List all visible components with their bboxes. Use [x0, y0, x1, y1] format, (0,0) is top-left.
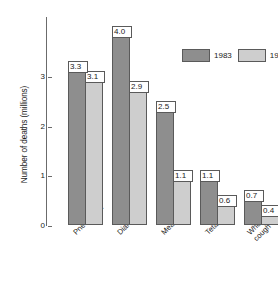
bar-value-label: 0.6 — [217, 195, 237, 207]
y-tick-label-1: 1 — [25, 170, 45, 181]
bar-1983-tetanus[interactable]: 1.1 — [200, 170, 218, 225]
bar-1983-whooping-cough[interactable]: 0.7 — [244, 190, 262, 225]
legend-label-1983: 1983 — [214, 51, 232, 60]
bar-value-label: 4.0 — [112, 26, 132, 38]
bar-1983-diarrhea[interactable]: 4.0 — [112, 26, 130, 225]
y-tick-2: 2 — [24, 127, 52, 128]
legend-swatch-icon-1992 — [238, 49, 266, 62]
bar-value-label: 0.7 — [244, 190, 264, 202]
y-tick-mark — [48, 176, 52, 177]
y-tick-mark — [48, 226, 52, 227]
bar-group-tetanus: 1.1 0.6 — [200, 16, 235, 225]
y-tick-label-3: 3 — [25, 71, 45, 82]
y-tick-label-2: 2 — [25, 121, 45, 132]
legend-swatch-icon-1983 — [182, 49, 210, 62]
bar-value-label: 0.4 — [261, 205, 278, 217]
bar-value-label: 1.1 — [200, 170, 220, 182]
bar-1992-pneumonia[interactable]: 3.1 — [85, 71, 103, 225]
legend-entry-1992: 1992 — [238, 49, 278, 62]
bar-1992-tetanus[interactable]: 0.6 — [217, 195, 235, 225]
y-axis-line — [46, 17, 47, 226]
bar-chart: Number of deaths (millions) 0 1 2 3 3.3 … — [0, 0, 278, 283]
chart-legend: 1983 1992 — [182, 49, 278, 62]
y-tick-1: 1 — [24, 176, 52, 177]
bar-1983-pneumonia[interactable]: 3.3 — [68, 61, 86, 225]
y-tick-0: 0 — [24, 226, 52, 227]
legend-entry-1983: 1983 — [182, 49, 232, 62]
bar-group-measles: 2.5 1.1 — [156, 16, 191, 225]
y-tick-3: 3 — [24, 77, 52, 78]
bar-value-label: 2.9 — [129, 81, 149, 93]
bar-1983-measles[interactable]: 2.5 — [156, 101, 174, 225]
bar-value-label: 1.1 — [173, 170, 193, 182]
legend-label-1992: 1992 — [270, 51, 278, 60]
y-tick-mark — [48, 77, 52, 78]
bar-group-whooping-cough: 0.7 0.4 — [244, 16, 278, 225]
y-tick-mark — [48, 127, 52, 128]
bar-1992-whooping-cough[interactable]: 0.4 — [261, 205, 278, 225]
bar-group-pneumonia: 3.3 3.1 — [68, 16, 103, 225]
bar-group-diarrhea: 4.0 2.9 — [112, 16, 147, 225]
bar-1992-diarrhea[interactable]: 2.9 — [129, 81, 147, 225]
bar-value-label: 3.1 — [85, 71, 105, 83]
bar-value-label: 3.3 — [68, 61, 88, 73]
bar-value-label: 2.5 — [156, 101, 176, 113]
y-tick-label-0: 0 — [25, 220, 45, 231]
bar-1992-measles[interactable]: 1.1 — [173, 170, 191, 225]
